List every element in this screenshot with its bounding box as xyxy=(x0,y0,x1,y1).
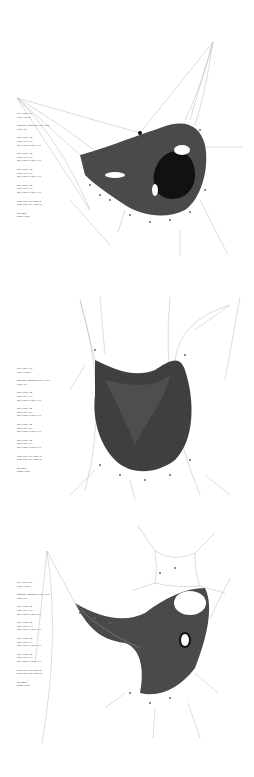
mesh-panel-3: iter: 0427 / 1.5conv: 0.0148 stiffness /… xyxy=(0,518,254,777)
parameter-list-2: iter: 0427 / 1.5conv: 0.0148 stiffness /… xyxy=(17,367,67,479)
param-line: stp: 0.005 / 0.001 / 0.0 xyxy=(17,191,67,195)
param-block: anc: 0480 / 12rest: 0.50 / 1.0stp: 0.005… xyxy=(17,637,67,648)
param-block: anc: 0480 / 12rest: 0.50 / 1.0stp: 0.005… xyxy=(17,653,67,664)
param-line: relax: 0.0 xyxy=(17,383,67,387)
param-line: relax: 0.0 xyxy=(17,128,67,132)
param-line: node max: 3.0 / 2000 m xyxy=(17,203,67,207)
param-block: anc: 0480 / 12rest: 0.50 / 1.0stp: 0.005… xyxy=(17,391,67,402)
param-block: anc: 0480 / 12rest: 0.50 / 1.0stp: 0.005… xyxy=(17,407,67,418)
param-block: pts: 2304frame: 0003 xyxy=(17,681,67,688)
param-line: stp: 0.005 / 0.001 / 0.0 xyxy=(17,159,67,163)
parameter-list-1: iter: 0427 / 1.5conv: 0.0148 stiffness /… xyxy=(17,112,67,224)
param-block: iter: 0427 / 1.5conv: 0.0148 xyxy=(17,112,67,119)
param-line: stp: 0.005 / 0.001 / 0.0 xyxy=(17,144,67,148)
param-block: anc: 0480 / 12rest: 0.50 / 1.0stp: 0.005… xyxy=(17,605,67,616)
param-line: stp: 0.005 / 0.001 / 0.0 xyxy=(17,430,67,434)
param-block: iter: 0427 / 1.5conv: 0.0148 xyxy=(17,367,67,374)
param-block: stiffness / damping: 0.85 / 0.10relax: 0… xyxy=(17,593,67,600)
param-line: stp: 0.005 / 0.001 / 0.0 xyxy=(17,175,67,179)
param-line: stp: 0.005 / 0.001 / 0.0 xyxy=(17,644,67,648)
param-line: node max: 3.0 / 2000 m xyxy=(17,458,67,462)
param-block: stiffness / damping: 0.85 / 0.10relax: 0… xyxy=(17,379,67,386)
param-line: conv: 0.0148 xyxy=(17,116,67,120)
param-line: stp: 0.005 / 0.001 / 0.0 xyxy=(17,446,67,450)
param-block: pts: 2304frame: 0002 xyxy=(17,467,67,474)
param-block: anc: 0480 / 12rest: 0.50 / 1.0stp: 0.005… xyxy=(17,168,67,179)
param-line: relax: 0.0 xyxy=(17,597,67,601)
param-line: stp: 0.005 / 0.001 / 0.0 xyxy=(17,628,67,632)
parameter-list-3: iter: 0427 / 1.5conv: 0.0148 stiffness /… xyxy=(17,581,67,693)
param-block: anc: 0480 / 12rest: 0.50 / 1.0stp: 0.005… xyxy=(17,184,67,195)
param-line: conv: 0.0148 xyxy=(17,585,67,589)
param-line: stp: 0.005 / 0.001 / 0.0 xyxy=(17,660,67,664)
param-line: stp: 0.005 / 0.001 / 0.0 xyxy=(17,399,67,403)
param-block: node min: 0.5 / 2000 mnode max: 3.0 / 20… xyxy=(17,455,67,462)
param-block: anc: 0480 / 12rest: 0.50 / 1.0stp: 0.005… xyxy=(17,621,67,632)
param-line: stp: 0.005 / 0.001 / 0.0 xyxy=(17,414,67,418)
param-line: frame: 0001 xyxy=(17,215,67,219)
param-block: iter: 0427 / 1.5conv: 0.0148 xyxy=(17,581,67,588)
param-block: node min: 0.5 / 2000 mnode max: 3.0 / 20… xyxy=(17,200,67,207)
mesh-panel-1: iter: 0427 / 1.5conv: 0.0148 stiffness /… xyxy=(0,0,254,259)
param-block: stiffness / damping: 0.85 / 0.10relax: 0… xyxy=(17,124,67,131)
param-line: conv: 0.0148 xyxy=(17,371,67,375)
param-block: anc: 0480 / 12rest: 0.50 / 1.0stp: 0.005… xyxy=(17,136,67,147)
param-block: pts: 2304frame: 0001 xyxy=(17,212,67,219)
param-block: anc: 0480 / 12rest: 0.50 / 1.0stp: 0.005… xyxy=(17,423,67,434)
param-line: stp: 0.005 / 0.001 / 0.0 xyxy=(17,613,67,617)
param-block: node min: 0.5 / 2000 mnode max: 3.0 / 20… xyxy=(17,669,67,676)
param-block: anc: 0480 / 12rest: 0.50 / 1.0stp: 0.005… xyxy=(17,439,67,450)
param-line: node max: 3.0 / 2000 m xyxy=(17,672,67,676)
mesh-panel-2: iter: 0427 / 1.5conv: 0.0148 stiffness /… xyxy=(0,260,254,519)
param-line: frame: 0003 xyxy=(17,684,67,688)
param-block: anc: 0480 / 12rest: 0.50 / 1.0stp: 0.005… xyxy=(17,152,67,163)
param-line: frame: 0002 xyxy=(17,470,67,474)
